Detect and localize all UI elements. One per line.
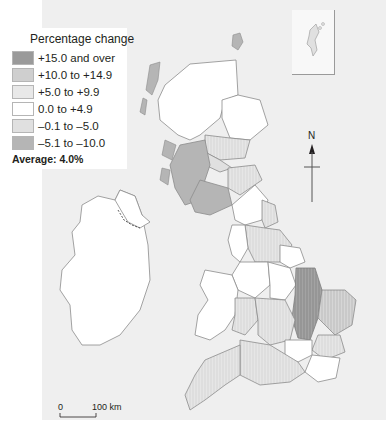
england-wales [185,185,356,410]
swatch-icon [12,102,34,116]
legend-row: +15.0 and over [12,49,127,66]
east-anglia [318,290,356,335]
legend-title: Percentage change [30,32,127,46]
swatch-icon [12,85,34,99]
wales [195,270,238,340]
legend-row: –5.1 to –10.0 [12,134,127,151]
western-isles [146,62,160,95]
scale-bar: 0 100 km [58,402,138,422]
kent-sussex [305,355,340,382]
swatch-icon [12,136,34,150]
map-legend: Percentage change +15.0 and over +10.0 t… [2,28,127,169]
swatch-icon [12,51,34,65]
swatch-icon [12,68,34,82]
ireland [60,190,150,345]
grampian [222,95,268,140]
shetland-inset [292,10,335,75]
legend-label: 0.0 to +4.9 [38,103,93,115]
scotland [140,33,268,215]
lincolnshire-cambridgeshire [292,268,322,340]
orkney [232,33,243,50]
legend-label: +5.0 to +9.9 [38,86,99,98]
legend-label: +10.0 to +14.9 [38,69,112,81]
north-arrow-icon: N [302,130,326,205]
swatch-icon [12,119,34,133]
legend-row: +5.0 to +9.9 [12,83,127,100]
south-west [185,345,240,410]
shetland-icon [292,10,334,74]
legend-label: –0.1 to –5.0 [38,120,99,132]
legend-row: 0.0 to +4.9 [12,100,127,117]
legend-row: +10.0 to +14.9 [12,66,127,83]
legend-average: Average: 4.0% [12,153,127,165]
legend-label: +15.0 and over [38,52,115,64]
legend-label: –5.1 to –10.0 [38,137,105,149]
legend-row: –0.1 to –5.0 [12,117,127,134]
